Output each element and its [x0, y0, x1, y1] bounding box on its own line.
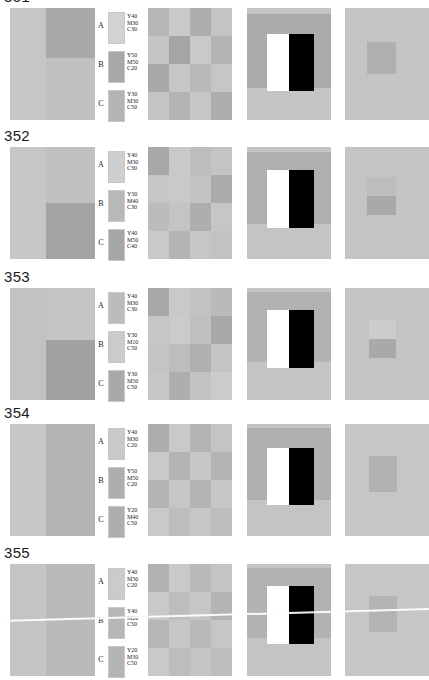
legend-row: AY40M30C30	[96, 292, 148, 322]
sample-row: 354AY40M30C20BY50M50C20CY20M40C50	[0, 406, 429, 541]
row-number-label: 351	[4, 0, 30, 4]
legend-group: AY40M30C20BY40M20C50CY20M30C50	[96, 564, 148, 676]
panel-center-square	[345, 8, 429, 120]
legend-group: AY40M30C30BY30M10C50CY30M50C50	[96, 288, 148, 400]
checker-cell	[211, 36, 232, 64]
legend-swatch-c	[108, 506, 125, 538]
checker-cell	[211, 288, 232, 316]
row-number-label: 355	[4, 545, 30, 560]
checker-cell	[169, 648, 190, 676]
checker-cell	[211, 92, 232, 120]
legend-letter-a: A	[96, 21, 106, 30]
panel1-test-block	[46, 203, 95, 259]
panel4-square-top	[369, 320, 396, 339]
checker-cell	[169, 424, 190, 452]
legend-row: CY30M50C50	[96, 370, 148, 400]
checker-cell	[169, 564, 190, 592]
panel-vertical-fields	[10, 424, 95, 536]
checker-cell	[211, 564, 232, 592]
checker-cell	[190, 175, 211, 203]
legend-letter-b: B	[96, 340, 106, 349]
legend-group: AY40M30C20BY50M50C20CY20M40C50	[96, 424, 148, 536]
legend-letter-a: A	[96, 160, 106, 169]
legend-swatch-a	[108, 12, 125, 44]
legend-row: BY50M50C20	[96, 51, 148, 81]
checker-cell	[169, 452, 190, 480]
sample-row: 353AY40M30C30BY30M10C50CY30M50C50	[0, 268, 429, 403]
legend-swatch-c	[108, 229, 125, 261]
panel3-black-bar	[289, 310, 314, 368]
checker-cell	[148, 231, 169, 259]
panel-bw-bars	[247, 288, 331, 400]
checker-cell	[211, 64, 232, 92]
row-number-label: 353	[4, 269, 30, 284]
legend-swatch-a	[108, 292, 125, 324]
panel1-test-block	[46, 564, 95, 669]
legend-row: AY40M30C30	[96, 151, 148, 181]
checker-cell	[148, 316, 169, 344]
checker-cell	[190, 592, 211, 620]
legend-row: AY40M30C20	[96, 428, 148, 458]
legend-row: AY40M30C20	[96, 568, 148, 598]
checker-cell	[211, 648, 232, 676]
checker-cell	[190, 92, 211, 120]
checker-cell	[169, 592, 190, 620]
checker-cell	[169, 231, 190, 259]
checker-cell	[190, 564, 211, 592]
panel1-test-block	[46, 8, 95, 58]
checker-cell	[148, 592, 169, 620]
panel4-square-bottom	[369, 339, 396, 358]
legend-swatch-a	[108, 568, 125, 600]
legend-letter-a: A	[96, 437, 106, 446]
legend-letter-b: B	[96, 476, 106, 485]
row-number-label: 352	[4, 128, 30, 143]
checker-cell	[190, 316, 211, 344]
checker-cell	[211, 8, 232, 36]
checker-cell	[169, 620, 190, 648]
panel-vertical-fields	[10, 8, 95, 120]
checker-cell	[211, 203, 232, 231]
checker-cell	[148, 64, 169, 92]
legend-swatch-b	[108, 51, 125, 83]
row-number-label: 354	[4, 405, 30, 420]
checker-cell	[190, 36, 211, 64]
legend-letter-a: A	[96, 577, 106, 586]
sample-row: 355AY40M30C20BY40M20C50CY20M30C50	[0, 545, 429, 680]
legend-row: BY50M50C20	[96, 467, 148, 497]
checker-cell	[190, 620, 211, 648]
checker-cell	[169, 344, 190, 372]
checker-cell	[148, 147, 169, 175]
panel3-white-bar	[267, 310, 289, 368]
panel-group: AY40M30C30BY30M40C30CY40M50C40	[0, 147, 429, 259]
panel1-left-field	[10, 564, 46, 676]
legend-row: BY30M40C30	[96, 190, 148, 220]
checker-cell	[211, 452, 232, 480]
panel-vertical-fields	[10, 564, 95, 676]
legend-swatch-b	[108, 190, 125, 222]
legend-row: AY40M30C30	[96, 12, 148, 42]
legend-row: CY20M40C50	[96, 506, 148, 536]
checker-cell	[211, 344, 232, 372]
checker-cell	[169, 372, 190, 400]
legend-swatch-a	[108, 428, 125, 460]
legend-row: BY30M10C50	[96, 331, 148, 361]
legend-swatch-c	[108, 646, 125, 678]
checker-cell	[148, 344, 169, 372]
checker-cell	[190, 8, 211, 36]
legend-swatch-c	[108, 90, 125, 122]
panel1-left-field	[10, 424, 46, 536]
checker-cell	[148, 424, 169, 452]
checker-cell	[190, 508, 211, 536]
panel-group: AY40M30C30BY30M10C50CY30M50C50	[0, 288, 429, 400]
panel-checkerboard	[148, 424, 232, 536]
panel-group: AY40M30C30BY50M50C20CY30M30C50	[0, 8, 429, 120]
checker-cell	[148, 564, 169, 592]
panel3-white-bar	[267, 448, 289, 505]
panel-center-square	[345, 288, 429, 400]
checker-cell	[190, 648, 211, 676]
checker-cell	[169, 92, 190, 120]
checker-cell	[211, 480, 232, 508]
checker-cell	[148, 480, 169, 508]
checker-cell	[190, 452, 211, 480]
